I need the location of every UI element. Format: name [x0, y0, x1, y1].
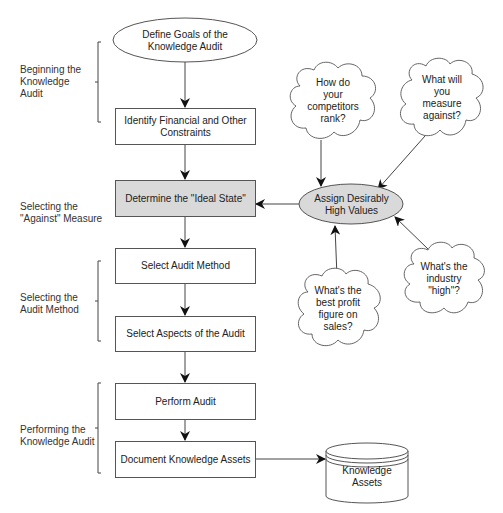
stage-label-selecting-method: Selecting the Audit Method: [20, 292, 79, 316]
stage-label-performing: Performing the Knowledge Audit: [20, 424, 95, 448]
node-identify-constraints: Identify Financial and Other Constraints: [115, 108, 256, 145]
node-assign-values: Assign Desirably High Values: [299, 185, 404, 225]
node-define-goals: Define Goals of the Knowledge Audit: [113, 18, 257, 63]
stage-bracket-beginning: [95, 42, 101, 122]
node-select-audit-method: Select Audit Method: [115, 248, 256, 284]
node-document-assets: Document Knowledge Assets: [115, 441, 256, 478]
stage-bracket-selecting-method: [95, 261, 101, 341]
cloud-competitors: How do your competitors rank?: [292, 72, 374, 130]
stage-label-beginning: Beginning the Knowledge Audit: [20, 64, 81, 100]
node-determine-ideal-state: Determine the "Ideal State": [115, 180, 256, 217]
knowledge-audit-flowchart: Beginning the Knowledge Audit Selecting …: [0, 0, 503, 513]
node-select-aspects: Select Aspects of the Audit: [115, 316, 256, 352]
datastore-knowledge-assets: Knowledge Assets: [326, 462, 408, 492]
cloud-best-profit: What's the best profit figure on sales?: [298, 280, 378, 338]
cloud-industry-high: What's the industry "high"?: [405, 255, 483, 303]
stage-bracket-performing: [95, 383, 101, 473]
cloud-measure-against: What will you measure against?: [403, 68, 481, 128]
node-perform-audit: Perform Audit: [115, 383, 256, 420]
stage-label-selecting-against: Selecting the "Against" Measure: [20, 201, 102, 225]
